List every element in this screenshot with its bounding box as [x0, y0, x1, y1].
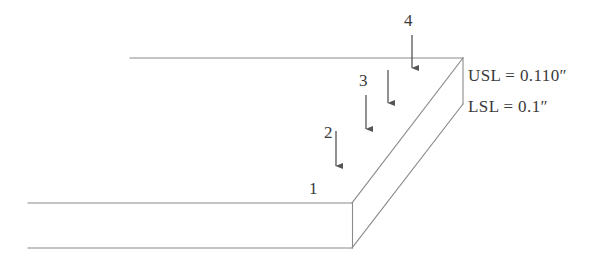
measurement-point-label-4: 4 [404, 12, 413, 29]
measurement-point-label-2: 2 [324, 124, 333, 141]
plate-thickness-diagram: 4 3 2 1 USL = 0.110″ LSL = 0.1″ [0, 0, 614, 269]
lower-spec-limit-label: LSL = 0.1″ [468, 97, 548, 117]
measurement-point-label-3: 3 [359, 72, 368, 89]
plate-solid-drawing [0, 0, 614, 269]
bottom-right-diagonal-edge [352, 104, 463, 248]
plate-body [28, 58, 463, 248]
measurement-point-label-1: 1 [309, 180, 318, 197]
top-right-diagonal-edge [352, 58, 463, 203]
measurement-arrows [336, 35, 412, 166]
upper-spec-limit-label: USL = 0.110″ [468, 66, 567, 86]
